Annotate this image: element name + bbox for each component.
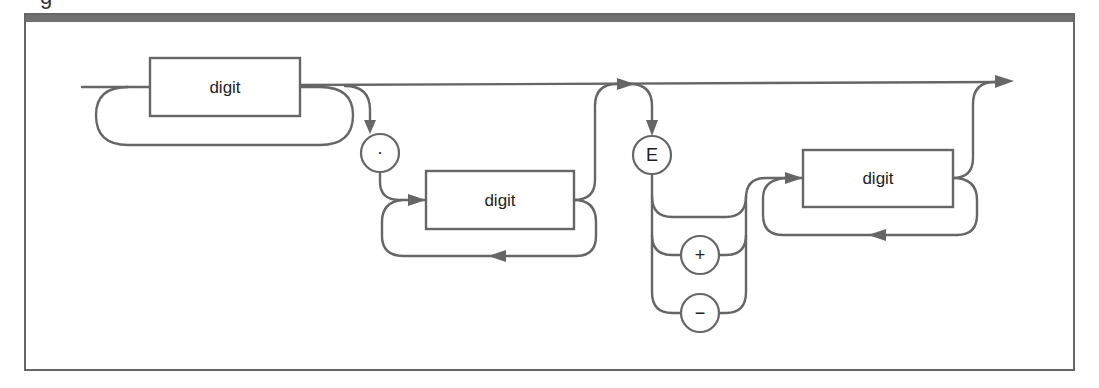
sign-plus-node: +: [681, 236, 719, 274]
digit-integer-node: digit: [150, 58, 300, 116]
decimal-point-node: ·: [361, 134, 399, 172]
plus-out-line: [719, 235, 746, 255]
digit-fraction-node: digit: [426, 171, 574, 229]
arrow-down-decimal: [364, 120, 376, 134]
digit-exponent-label: digit: [862, 169, 893, 188]
arrow-exit: [995, 75, 1014, 88]
arrow-down-exponent: [646, 120, 658, 136]
arrow-left-fraction-loop: [488, 250, 506, 262]
arrow-left-exponent-loop: [868, 229, 886, 241]
digit-fraction-label: digit: [484, 191, 515, 210]
sign-minus-node: −: [681, 294, 719, 332]
decimal-point-label: ·: [377, 142, 383, 162]
sign-right-rail: [719, 178, 803, 313]
main-bypass-line: [300, 82, 1000, 85]
sign-left-rail: [652, 174, 681, 313]
digit-integer-label: digit: [209, 78, 240, 97]
no-sign-path: [652, 196, 746, 217]
exponent-e-node: E: [633, 136, 671, 174]
sign-plus-label: +: [695, 245, 706, 265]
plus-in-line: [652, 235, 681, 255]
fraction-exit-line: [574, 84, 617, 200]
exponent-exit-line: [953, 82, 995, 178]
arrow-right-exponent-digit: [785, 172, 803, 184]
digit-exponent-node: digit: [803, 150, 953, 207]
sign-minus-label: −: [695, 303, 706, 323]
decimal-to-fraction-line: [380, 172, 426, 200]
syntax-diagram: digit digit digit · E + −: [0, 0, 1099, 388]
arrow-right-fraction: [408, 194, 426, 206]
exponent-e-label: E: [646, 145, 658, 165]
